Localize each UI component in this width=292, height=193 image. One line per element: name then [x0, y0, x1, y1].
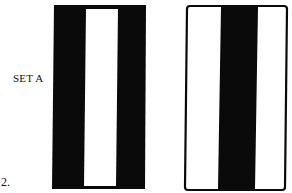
stripe-card-right-graphic: [0, 0, 292, 193]
card-right-white-black-stripe: [0, 0, 292, 193]
